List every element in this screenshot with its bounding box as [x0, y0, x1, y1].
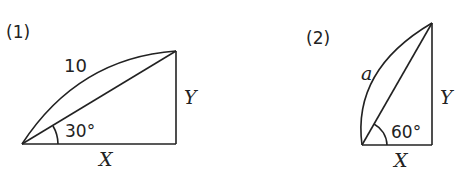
figure-1: (1) 10 30° X Y — [6, 22, 199, 170]
figure-1-x-label: X — [97, 148, 114, 170]
figure-2-angle-label: 60° — [391, 122, 421, 142]
figure-1-number: (1) — [6, 22, 30, 42]
figure-1-arc-label: 10 — [64, 55, 87, 76]
figure-1-hypotenuse — [22, 51, 176, 144]
figure-1-angle-arc — [53, 126, 58, 144]
figure-2-angle-arc — [374, 124, 387, 145]
figure-1-angle-label: 30° — [65, 121, 95, 141]
figure-2-x-label: X — [392, 149, 409, 171]
figure-2-y-label: Y — [440, 86, 455, 108]
figure-2: (2) a 60° X Y — [306, 23, 455, 171]
figure-2-arc-label: a — [361, 62, 372, 84]
diagram-canvas: (1) 10 30° X Y (2) a 60° X Y — [0, 0, 467, 182]
figure-1-y-label: Y — [184, 86, 199, 108]
figure-2-number: (2) — [306, 28, 330, 48]
